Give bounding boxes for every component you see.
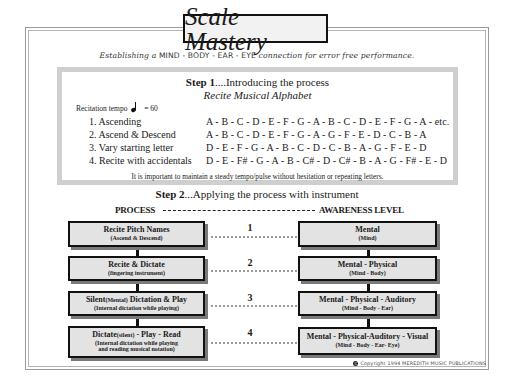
row-label: 2. Ascend & Descend [89,129,206,140]
process-title-main: Dictate [92,330,116,339]
process-title: Silent(Mental) Dictation & Play [70,296,203,305]
step1-label: Step 1 [186,76,215,88]
title-text: Scale Mastery [185,4,326,54]
heading-dash-divider [163,210,315,211]
process-title-after: - Play - Read [134,330,180,339]
tempo-value: = 60 [144,104,158,113]
awareness-box-2: Mental - Physical (Mind - Body) [298,256,437,281]
awareness-box-1: Mental (Mind) [298,221,437,247]
recitation-row: 1. AscendingA - B - C - D - E - F - G - … [89,116,449,127]
tempo-line: Recitation tempo = 60 [76,104,158,113]
process-title: Dictate(silent) - Play - Read [70,331,203,340]
step-number: 4 [243,327,257,338]
process-sub: (fingering instrument) [70,270,203,277]
copyright-notice: CCopyright 1994 MEREDITH MUSIC PUBLICATI… [353,361,486,366]
process-title-small: (silent) [117,332,135,338]
process-title: Recite & Dictate [70,261,203,270]
tempo-label: Recitation tempo [76,104,127,113]
awareness-sub: (Mind - Body - Ear- Eye) [300,342,435,349]
row-label: 4. Recite with accidentals [89,155,206,166]
row-label: 3. Vary starting letter [89,142,206,153]
awareness-column-heading: AWARENESS LEVEL [319,205,404,215]
step-number: 3 [243,292,257,303]
awareness-box-3: Mental - Physical - Auditory (Mind - Bod… [298,291,437,316]
dotted-link [211,342,297,344]
step1-heading-text: ....Introducing the process [215,76,329,88]
page-title: Scale Mastery [183,14,328,43]
recitation-row: 3. Vary starting letterD - E - F - G - A… [89,142,427,153]
awareness-title: Mental [300,226,435,235]
awareness-box-4: Mental - Physical-Auditory - Visual (Min… [298,327,437,355]
awareness-sub: (Mind) [300,235,435,242]
dotted-link [211,305,297,307]
process-title-main: Silent [86,295,106,304]
process-column-heading: PROCESS [115,205,155,215]
row-label: 1. Ascending [89,116,206,127]
process-sub-2: and reading musical notation) [70,346,203,353]
awareness-title: Mental - Physical-Auditory - Visual [300,333,435,342]
process-box-4: Dictate(silent) - Play - Read (Internal … [68,326,205,358]
process-box-2: Recite & Dictate (fingering instrument) [68,256,205,281]
row-sequence: A - B - C - D - E - F - G - A - G - F - … [206,129,427,140]
step-number: 1 [243,222,257,233]
quarter-note-icon [131,104,138,112]
awareness-title: Mental - Physical - Auditory [300,296,435,305]
copyright-text: Copyright 1994 MEREDITH MUSIC PUBLICATIO… [360,361,486,366]
recitation-row: 2. Ascend & DescendA - B - C - D - E - F… [89,129,427,140]
awareness-sub: (Mind - Body) [300,270,435,277]
awareness-sub: (Mind - Body - Ear) [300,305,435,312]
row-sequence: D - E - F# - G - A - B - C# - D - C# - B… [206,155,447,166]
process-sub: (Ascend & Descend) [70,235,203,242]
step1-subheading: Recite Musical Alphabet [62,89,453,101]
process-sub: (Internal dictation while playing [70,340,203,347]
process-box-3: Silent(Mental) Dictation & Play (Interna… [68,291,205,316]
process-title-small: (Mental) [105,297,127,303]
recitation-row: 4. Recite with accidentalsD - E - F# - G… [89,155,447,166]
process-title: Recite Pitch Names [70,226,203,235]
step1-note: It is important to maintain a steady tem… [62,172,453,181]
row-sequence: A - B - C - D - E - F - G - A - B - C - … [206,116,449,127]
step2-heading: Step 2...Applying the process with instr… [25,188,489,200]
row-sequence: D - E - F - G - A - B - C - D - C - B - … [206,142,427,153]
copyright-icon: C [353,361,358,366]
awareness-title: Mental - Physical [300,261,435,270]
dotted-link [211,270,297,272]
process-title-after: Dictation & Play [128,295,187,304]
step2-label: Step 2 [156,188,185,200]
subtitle-pre: Establishing a [100,51,159,60]
dotted-link [211,236,297,238]
step1-panel: Step 1....Introducing the process Recite… [57,67,458,185]
step1-heading: Step 1....Introducing the process [62,76,453,88]
step2-heading-text: ...Applying the process with instrument [185,188,359,200]
process-sub: (Internal dictation while playing) [70,305,203,312]
process-box-1: Recite Pitch Names (Ascend & Descend) [68,221,205,247]
step-number: 2 [243,257,257,268]
